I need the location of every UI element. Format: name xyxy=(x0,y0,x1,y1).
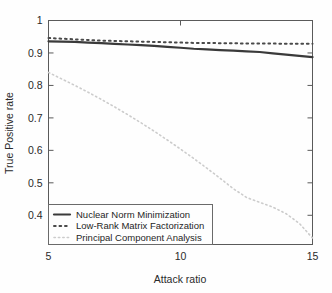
y-tick-label: 0.8 xyxy=(28,79,43,91)
x-tick-label: 10 xyxy=(175,250,187,262)
x-axis-label: Attack ratio xyxy=(154,273,207,285)
true-positive-rate-line-chart: 0.40.50.60.70.80.91 51015 Attack ratio T… xyxy=(0,0,332,293)
chart-figure: 0.40.50.60.70.80.91 51015 Attack ratio T… xyxy=(0,0,332,293)
y-tick-label: 1 xyxy=(37,14,43,26)
chart-legend[interactable]: Nuclear Norm MinimizationLow-Rank Matrix… xyxy=(49,205,213,245)
y-tick-label: 0.7 xyxy=(28,112,43,124)
y-tick-label: 0.4 xyxy=(28,209,43,221)
x-tick-label: 15 xyxy=(307,250,319,262)
legend-item-label[interactable]: Principal Component Analysis xyxy=(76,232,202,243)
legend-item-label[interactable]: Nuclear Norm Minimization xyxy=(76,209,190,220)
y-axis-label: True Positive rate xyxy=(3,92,15,174)
y-tick-label: 0.9 xyxy=(28,47,43,59)
legend-item-label[interactable]: Low-Rank Matrix Factorization xyxy=(76,220,204,231)
x-tick-label: 5 xyxy=(46,250,52,262)
y-tick-label: 0.6 xyxy=(28,144,43,156)
y-tick-label: 0.5 xyxy=(28,177,43,189)
